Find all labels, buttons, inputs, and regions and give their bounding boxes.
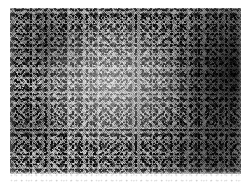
bottom-residue-strip <box>10 173 241 182</box>
page-canvas <box>0 0 245 184</box>
micrograph-plate <box>10 8 241 174</box>
plate-edge-vignette <box>10 8 241 174</box>
